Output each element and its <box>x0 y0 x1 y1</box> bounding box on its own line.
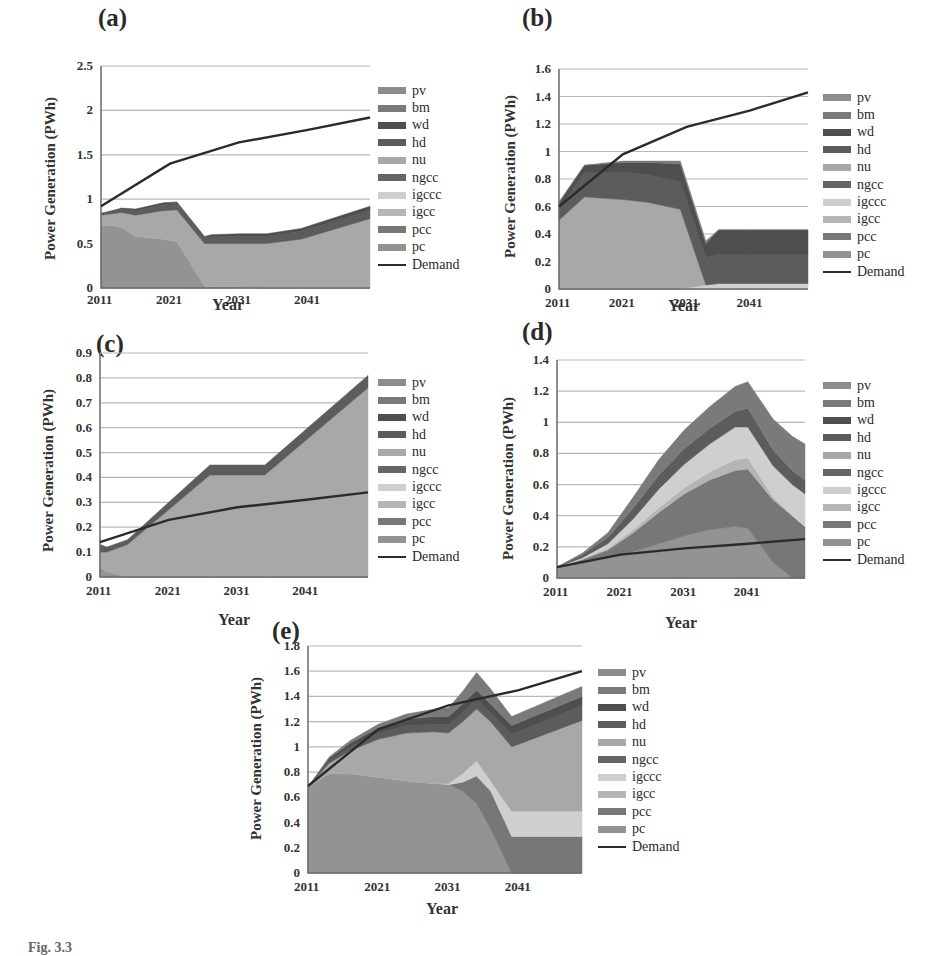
y-tick-label: 1.8 <box>266 638 300 654</box>
legend-label: bm <box>632 682 650 698</box>
x-tick-label: 2031 <box>435 879 461 895</box>
legend-swatch-icon <box>598 704 626 711</box>
legend-swatch-icon <box>598 774 626 781</box>
legend-swatch-icon <box>598 791 626 798</box>
legend-swatch-icon <box>598 687 626 694</box>
legend-item-bm: bm <box>598 681 679 698</box>
legend-label: ngcc <box>632 752 658 768</box>
legend-label: pv <box>632 665 646 681</box>
y-tick-label: 1.2 <box>266 714 300 730</box>
legend-item-pc: pc <box>598 821 679 838</box>
y-tick-label: 1.4 <box>266 688 300 704</box>
y-axis-label: Power Generation (PWh) <box>248 677 265 840</box>
legend-item-wd: wd <box>598 699 679 716</box>
legend-item-igccc: igccc <box>598 768 679 785</box>
legend-label: pcc <box>632 804 651 820</box>
legend-label: nu <box>632 734 646 750</box>
x-tick-label: 2021 <box>364 879 390 895</box>
legend: pvbmwdhdnungccigcccigccpccpcDemand <box>598 664 679 855</box>
legend-swatch-icon <box>598 846 626 848</box>
legend-label: hd <box>632 717 646 733</box>
y-tick-label: 1.6 <box>266 663 300 679</box>
y-tick-label: 0.6 <box>266 789 300 805</box>
legend-item-igcc: igcc <box>598 786 679 803</box>
legend-item-ngcc: ngcc <box>598 751 679 768</box>
y-tick-label: 1 <box>266 739 300 755</box>
y-tick-label: 0.8 <box>266 764 300 780</box>
legend-swatch-icon <box>598 669 626 676</box>
x-tick-label: 2041 <box>505 879 531 895</box>
x-tick-label: 2011 <box>294 879 319 895</box>
figure-caption: Fig. 3.3 <box>28 940 72 956</box>
legend-swatch-icon <box>598 826 626 833</box>
legend-item-hd: hd <box>598 716 679 733</box>
y-tick-label: 0.2 <box>266 840 300 856</box>
legend-label: wd <box>632 699 649 715</box>
legend-swatch-icon <box>598 739 626 746</box>
legend-label: igccc <box>632 769 662 785</box>
legend-swatch-icon <box>598 756 626 763</box>
legend-label: pc <box>632 821 645 837</box>
y-tick-label: 0.4 <box>266 815 300 831</box>
legend-label: Demand <box>632 839 679 855</box>
legend-swatch-icon <box>598 721 626 728</box>
legend-item-demand: Demand <box>598 838 679 855</box>
legend-swatch-icon <box>598 808 626 815</box>
x-axis-label: Year <box>426 900 458 918</box>
legend-label: igcc <box>632 786 655 802</box>
legend-item-nu: nu <box>598 734 679 751</box>
legend-item-pcc: pcc <box>598 803 679 820</box>
legend-item-pv: pv <box>598 664 679 681</box>
